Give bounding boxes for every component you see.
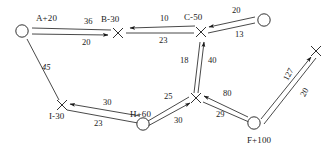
edge-label-c-b-10: 10 <box>160 14 169 23</box>
edge-label-a-b-20: 20 <box>82 38 91 47</box>
edge-label-a-b-36: 36 <box>84 17 93 26</box>
edge-label-a-i-45: 45 <box>42 63 51 72</box>
node-h-circle[interactable] <box>137 118 149 130</box>
node-label-c: C-50 <box>184 13 202 22</box>
edge-a-b-20 <box>32 34 108 35</box>
edge-a-b-36 <box>32 28 111 30</box>
node-topright-circle[interactable] <box>258 14 270 26</box>
node-label-h: H+60 <box>130 110 151 119</box>
node-a-circle[interactable] <box>16 25 28 37</box>
edge-label-f-mid-80: 80 <box>223 89 232 98</box>
node-label-a: A+20 <box>36 14 57 23</box>
edges-layer <box>27 17 316 127</box>
node-right-cross[interactable] <box>311 46 321 56</box>
edge-label-mid-c-40: 40 <box>208 56 217 65</box>
node-label-i: I-30 <box>49 112 64 121</box>
edge-label-c-topright-13: 13 <box>235 30 244 39</box>
edge-label-mid-h-25: 25 <box>164 92 173 101</box>
edge-label-mid-c-18: 18 <box>180 56 189 65</box>
edge-mid-f-29 <box>203 102 249 122</box>
network-flow-diagram: A+20 B-30 C-50 I-30 H+60 F+100 36 20 10 … <box>0 0 335 154</box>
edge-label-h-mid-30: 30 <box>174 116 183 125</box>
node-label-b: B-30 <box>101 15 119 24</box>
node-c-cross[interactable] <box>196 27 206 37</box>
node-label-f: F+100 <box>247 136 271 145</box>
node-f-circle[interactable] <box>248 117 260 129</box>
edge-label-mid-f-29: 29 <box>216 110 225 119</box>
node-b-cross[interactable] <box>113 28 123 38</box>
node-i-cross[interactable] <box>57 100 67 110</box>
node-mid-cross[interactable] <box>191 93 201 103</box>
edge-label-i-h-23: 23 <box>94 119 103 128</box>
edge-label-b-c-23: 23 <box>159 36 168 45</box>
edge-c-topright-13 <box>208 23 255 33</box>
edge-label-h-i-30: 30 <box>103 98 112 107</box>
edge-label-topright-c-20: 20 <box>232 6 241 15</box>
edge-h-mid-30 <box>146 103 190 127</box>
edge-c-b-10 <box>130 26 195 28</box>
edge-i-h-23 <box>67 110 138 123</box>
edge-topright-c-20 <box>209 17 255 27</box>
edge-f-mid-80 <box>204 96 248 117</box>
